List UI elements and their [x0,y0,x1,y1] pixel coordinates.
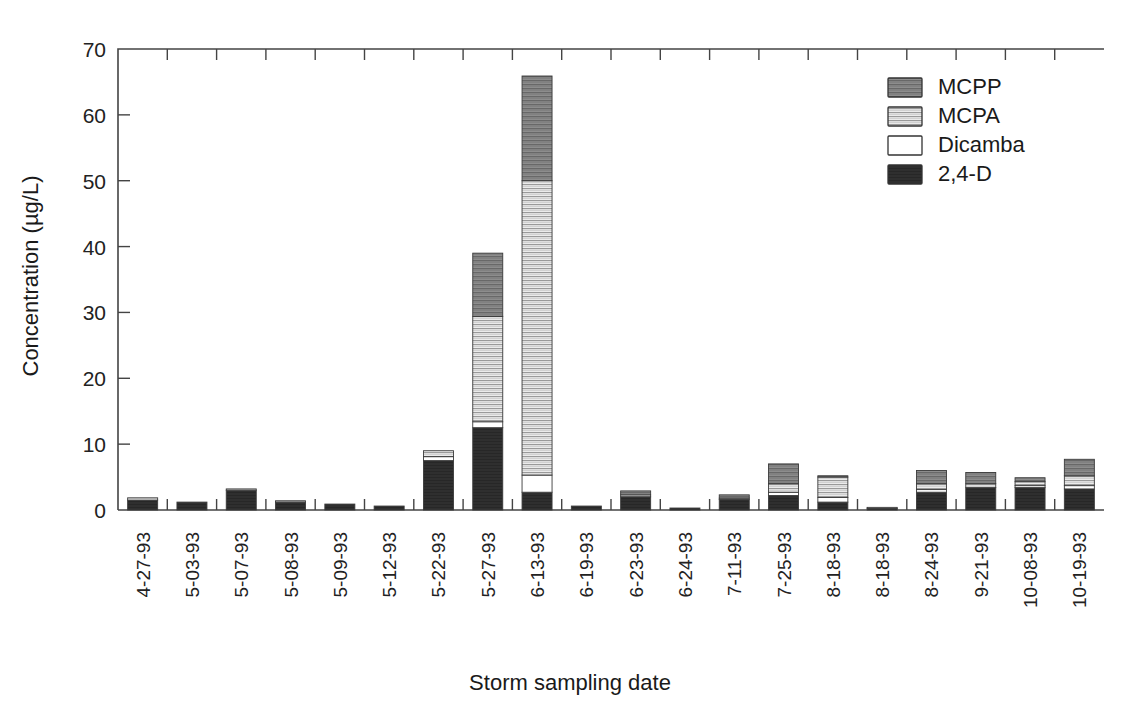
bar-segment-dicamba [522,475,552,492]
x-tick-label: 7-25-93 [774,532,795,598]
bar-segment-2-4-d [670,508,700,510]
bar-stack [867,507,897,510]
bar-segment-2-4-d [769,496,799,510]
legend-swatch-2-4-d [888,165,922,184]
bar-segment-mcpa [818,477,848,497]
bar-stack [374,506,404,510]
bar-segment-mcpa [226,489,256,490]
bar-segment-mcpp [1064,459,1094,475]
x-tick-label: 5-08-93 [281,532,302,598]
bar-stack [276,501,306,510]
bar-segment-2-4-d [128,500,158,510]
bar-segment-dicamba [769,492,799,495]
bar-segment-2-4-d [719,499,749,510]
y-tick-label: 20 [83,367,106,390]
bar-stack [769,464,799,510]
bar-stack [621,491,651,510]
y-tick-label: 60 [83,104,106,127]
bar-stack [128,498,158,510]
bar-segment-mcpa [867,507,897,508]
bar-segment-2-4-d [473,428,503,510]
bar-segment-mcpa [423,451,453,457]
bar-stack [423,451,453,510]
y-tick-label: 40 [83,236,106,259]
bar-segment-mcpa [1015,482,1045,486]
x-tick-label: 5-12-93 [379,532,400,598]
bar-segment-mcpa [522,181,552,475]
legend-swatch-dicamba [888,136,922,155]
x-tick-label: 10-19-93 [1069,532,1090,608]
bar-segment-mcpa [1064,476,1094,486]
y-tick-label: 70 [83,38,106,61]
bar-segment-mcpa [966,484,996,488]
bar-stack [571,506,601,510]
bar-segment-mcpa [769,484,799,493]
y-axis-title: Concentration (µg/L) [18,176,43,377]
bar-segment-mcpa [473,316,503,421]
bar-segment-mcpp [769,464,799,484]
legend-swatch-mcpa [888,107,922,126]
bar-stack [1015,478,1045,510]
bar-segment-2-4-d [522,492,552,510]
bar-stack [177,502,207,510]
x-tick-label: 4-27-93 [133,532,154,598]
bar-segment-mcpp [473,253,503,316]
legend-label: Dicamba [938,132,1026,157]
bar-segment-2-4-d [177,502,207,510]
bar-segment-mcpp [1015,478,1045,482]
bar-stack [670,508,700,510]
x-tick-label: 10-08-93 [1020,532,1041,608]
legend-label: MCPP [938,74,1002,99]
bar-segment-dicamba [473,422,503,428]
bar-segment-mcpa [276,501,306,502]
bar-segment-2-4-d [276,502,306,510]
x-tick-label: 5-27-93 [478,532,499,598]
bar-segment-2-4-d [226,490,256,510]
bar-segment-mcpa [128,498,158,500]
bar-stack [325,504,355,510]
x-tick-label: 8-18-93 [872,532,893,598]
bar-stack [916,470,946,510]
bar-segment-2-4-d [621,497,651,510]
y-tick-label: 30 [83,301,106,324]
bar-stack [818,476,848,510]
x-tick-label: 6-19-93 [576,532,597,598]
stacked-bar-chart-svg: 010203040506070 4-27-935-03-935-07-935-0… [0,0,1134,708]
legend-label: MCPA [938,103,1000,128]
legend-label: 2,4-D [938,161,992,186]
bar-segment-2-4-d [423,461,453,510]
bar-segment-2-4-d [1015,488,1045,510]
bar-segment-dicamba [1064,486,1094,489]
y-tick-label: 10 [83,433,106,456]
x-tick-label: 6-13-93 [527,532,548,598]
y-tick-label: 50 [83,170,106,193]
bar-segment-dicamba [423,457,453,461]
bar-segment-mcpp [916,470,946,483]
x-tick-label: 6-24-93 [675,532,696,598]
x-tick-label: 8-18-93 [823,532,844,598]
bar-stack [719,495,749,510]
bar-segment-2-4-d [1064,489,1094,510]
bar-stack [473,253,503,510]
bar-segment-mcpp [621,491,651,495]
bar-stack [966,472,996,510]
x-axis-title: Storm sampling date [469,670,671,695]
bar-segment-2-4-d [374,506,404,510]
x-tick-label: 6-23-93 [626,532,647,598]
bar-segment-2-4-d [966,488,996,510]
bar-segment-mcpp [966,472,996,483]
bar-segment-2-4-d [916,492,946,510]
x-tick-label: 8-24-93 [921,532,942,598]
bar-segment-2-4-d [571,506,601,510]
x-tick-label: 5-03-93 [182,532,203,598]
x-tick-label: 5-09-93 [330,532,351,598]
bar-segment-mcpp [719,495,749,498]
bar-segment-mcpp [818,476,848,477]
bar-segment-mcpa [916,484,946,490]
bar-segment-2-4-d [325,504,355,510]
bar-segment-2-4-d [818,502,848,510]
y-tick-label: 0 [94,499,106,522]
x-tick-label: 7-11-93 [724,532,745,596]
bar-stack [1064,459,1094,510]
x-tick-label: 5-22-93 [428,532,449,598]
